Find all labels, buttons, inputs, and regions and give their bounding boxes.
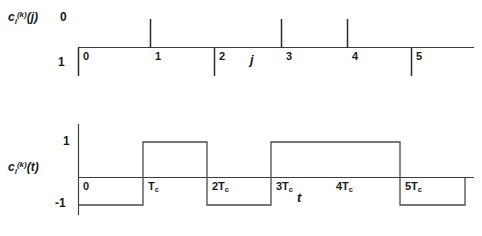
bottom-tick-5-sub: c <box>418 185 422 194</box>
bottom-chart-waveform <box>79 142 466 205</box>
bottom-tick-4-sub: c <box>349 185 353 194</box>
bottom-tick-3-sub: c <box>289 185 293 194</box>
signal-waveform-figure: cl(k)(j) 0 1 0 1 2 3 4 5 j cl(k)(t) 1 -1 <box>0 0 482 236</box>
bottom-tick-2-sub: c <box>225 185 229 194</box>
bottom-tick-3-base: 3T <box>276 180 289 192</box>
bottom-chart-tick-4: 4Tc <box>336 180 353 194</box>
bottom-chart-tick-5: 5Tc <box>405 180 422 194</box>
bottom-chart-tick-2: 2Tc <box>212 180 229 194</box>
bottom-chart-tick-0: 0 <box>83 180 89 194</box>
bottom-chart-plot <box>0 0 482 236</box>
bottom-tick-4-base: 4T <box>336 180 349 192</box>
bottom-tick-5-base: 5T <box>405 180 418 192</box>
bottom-chart-x-axis-variable: t <box>297 190 301 205</box>
bottom-tick-1-sub: c <box>155 185 159 194</box>
bottom-chart-tick-1: Tc <box>148 180 159 194</box>
bottom-chart-tick-3: 3Tc <box>276 180 293 194</box>
bottom-tick-1-base: T <box>148 180 155 192</box>
bottom-tick-0-base: 0 <box>83 180 89 192</box>
bottom-tick-2-base: 2T <box>212 180 225 192</box>
